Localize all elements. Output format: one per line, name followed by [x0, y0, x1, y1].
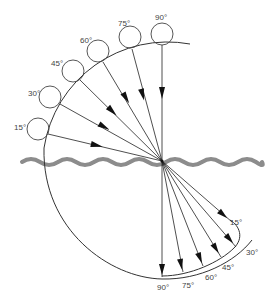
incident-label-60: 60° — [80, 36, 92, 45]
arrowhead-icon — [98, 121, 111, 132]
arrowhead-icon — [90, 141, 103, 150]
incident-rays — [48, 45, 162, 161]
arrowhead-icon — [106, 105, 119, 118]
arrowhead-icon — [195, 252, 205, 264]
refracted-labels: 15° 30° 45° 60° 75° 90° — [157, 218, 258, 292]
arrowhead-icon — [159, 87, 165, 99]
entry-point — [160, 159, 163, 162]
ball-15 — [27, 118, 49, 140]
incident-label-45: 45° — [51, 59, 63, 68]
refracted-label-75: 75° — [182, 281, 194, 290]
ball-45 — [62, 60, 84, 82]
incident-label-15: 15° — [14, 123, 26, 132]
incident-ray-75 — [132, 49, 162, 161]
incident-ray-30 — [60, 104, 162, 161]
refracted-label-15: 15° — [230, 218, 242, 227]
refracted-ray-60 — [162, 161, 203, 266]
incident-arc — [44, 42, 190, 148]
refracted-label-45: 45° — [222, 263, 234, 272]
incident-label-30: 30° — [28, 89, 40, 98]
arrowhead-icon — [177, 258, 185, 270]
refraction-diagram: 15° 30° 45° 60° 75° 90° 15° 30° 45° 60° … — [0, 0, 271, 302]
water-surface-wave — [22, 159, 263, 165]
refracted-label-90: 90° — [157, 283, 169, 292]
ball-75 — [119, 26, 141, 48]
refracted-label-30: 30° — [246, 248, 258, 257]
ball-30 — [39, 86, 61, 108]
incident-labels: 15° 30° 45° 60° 75° 90° — [14, 13, 167, 132]
arrowhead-icon — [159, 264, 165, 275]
refracted-label-60: 60° — [205, 273, 217, 282]
incident-label-75: 75° — [118, 19, 130, 28]
incident-label-90: 90° — [155, 13, 167, 22]
refracted-ray-30 — [162, 161, 236, 247]
refracted-rays — [162, 161, 236, 277]
incident-arrowheads — [90, 87, 165, 150]
incident-ray-15 — [48, 134, 162, 161]
arrowhead-icon — [210, 242, 221, 255]
